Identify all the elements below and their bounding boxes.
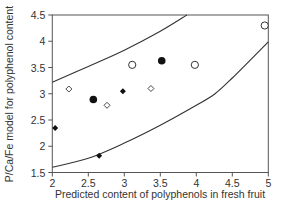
open-diamond-point <box>148 86 154 92</box>
x-tick-label: 4.5 <box>225 177 240 189</box>
y-tick-label: 4.5 <box>31 9 46 21</box>
filled-circle-point <box>90 96 98 104</box>
data-points <box>52 22 268 159</box>
y-axis-ticks: 1.522.533.544.5 <box>31 9 53 179</box>
x-tick-label: 2 <box>49 177 55 189</box>
y-tick-label: 1.5 <box>31 167 46 179</box>
filled-diamond-point <box>52 125 58 131</box>
x-tick-label: 5 <box>265 177 271 189</box>
x-axis-ticks: 22.533.544.55 <box>49 173 271 189</box>
plot-area-border <box>52 15 268 173</box>
confidence-curves <box>52 15 268 167</box>
open-circle-point <box>129 61 136 68</box>
filled-circle-point <box>158 57 166 65</box>
y-tick-label: 3.5 <box>31 62 46 74</box>
x-tick-label: 4 <box>193 177 199 189</box>
y-axis-label: P/Ca/Fe model for polyphenol content <box>3 6 15 182</box>
open-circle-point <box>261 22 268 29</box>
scatter-chart: 22.533.544.55 1.522.533.544.5 Predicted … <box>0 0 288 210</box>
plot-frame <box>52 15 268 173</box>
filled-diamond-point <box>120 88 126 94</box>
open-diamond-point <box>104 102 110 108</box>
y-tick-label: 4 <box>39 35 45 47</box>
x-tick-label: 2.5 <box>81 177 96 189</box>
open-circle-point <box>191 61 198 68</box>
upper-confidence-curve <box>52 15 187 82</box>
y-tick-label: 3 <box>39 88 45 100</box>
y-tick-label: 2.5 <box>31 114 46 126</box>
x-tick-label: 3 <box>121 177 127 189</box>
x-axis-label: Predicted content of polyphenols in fres… <box>55 188 265 200</box>
open-diamond-point <box>66 86 72 92</box>
x-tick-label: 3.5 <box>153 177 168 189</box>
y-tick-label: 2 <box>39 140 45 152</box>
